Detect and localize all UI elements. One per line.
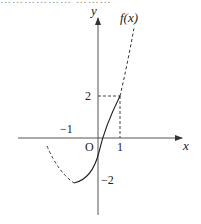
y-axis-label: y	[89, 3, 97, 18]
tick-y-neg2: −2	[101, 173, 114, 187]
curve-solid	[74, 96, 120, 183]
curve-left-dashed	[47, 146, 74, 183]
function-graph: y x f(x) O 1 −1 2 −2	[0, 0, 201, 224]
curve-label: f(x)	[120, 10, 138, 25]
x-axis-label: x	[182, 138, 189, 153]
tick-x-neg1: −1	[60, 122, 73, 136]
tick-x-1: 1	[117, 140, 123, 154]
curve-upper-dashed	[120, 28, 134, 96]
tick-y-2: 2	[85, 89, 91, 103]
origin-label: O	[85, 140, 94, 154]
